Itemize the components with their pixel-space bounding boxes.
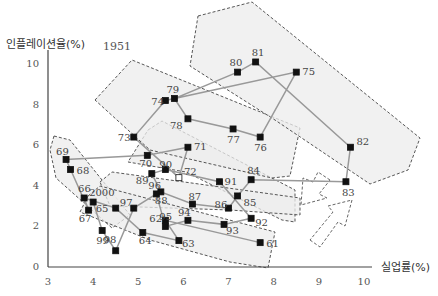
data-point-marker [257, 240, 263, 246]
data-point-marker [113, 205, 119, 211]
year-annotation: 1951 [103, 40, 131, 53]
data-point-label: 94 [178, 207, 191, 218]
data-point-marker [176, 175, 182, 181]
arrow-down-left-icon [301, 172, 330, 205]
data-point-marker [235, 193, 241, 199]
data-point-marker [171, 96, 177, 102]
x-tick-label: 3 [45, 276, 51, 287]
data-point-marker [293, 69, 299, 75]
x-tick-label: 10 [358, 276, 371, 287]
data-point-label: 91 [225, 176, 238, 187]
data-point-label: 79 [166, 84, 179, 95]
y-tick-label: 2 [33, 220, 39, 231]
arrow-up-right-icon [310, 200, 352, 247]
data-point-label: 72 [184, 166, 197, 177]
x-tick-label: 7 [225, 276, 231, 287]
data-point-marker [185, 144, 191, 150]
data-point-label: 84 [247, 165, 260, 176]
data-point-marker [68, 167, 74, 173]
y-tick-label: 6 [33, 139, 39, 150]
data-point-label: 65 [96, 203, 109, 214]
data-point-label: 68 [77, 165, 90, 176]
data-point-label: 80 [230, 57, 243, 68]
data-point-marker [90, 199, 96, 205]
data-point-label: 89 [136, 175, 149, 186]
data-point-label: 75 [302, 66, 315, 77]
data-point-label: 99 [96, 235, 109, 246]
data-point-marker [347, 144, 353, 150]
data-point-marker [99, 227, 105, 233]
data-point-marker [230, 126, 236, 132]
data-point-label: 83 [342, 187, 355, 198]
x-tick-label: 6 [180, 276, 186, 287]
data-point-marker [185, 116, 191, 122]
data-point-label: 76 [254, 142, 267, 153]
data-point-label: 70 [139, 158, 152, 169]
data-point-label: 86 [215, 199, 228, 210]
data-point-label: 61 [266, 238, 279, 249]
data-point-label: 73 [118, 132, 131, 143]
data-point-label: 93 [226, 225, 239, 236]
data-point-label: 77 [227, 134, 240, 145]
data-point-marker [217, 179, 223, 185]
data-point-label: 95 [159, 211, 172, 222]
x-tick-label: 9 [316, 276, 322, 287]
data-point-label: 85 [244, 197, 257, 208]
data-point-marker [248, 215, 254, 221]
data-point-label: 2000 [89, 187, 114, 198]
data-point-label: 92 [255, 217, 268, 228]
data-point-label: 69 [56, 146, 69, 157]
data-point-label: 96 [148, 180, 161, 191]
y-axis-title: 인플레이션율(%) [6, 38, 85, 51]
x-tick-label: 8 [271, 276, 277, 287]
x-axis-title: 실업률(%) [381, 261, 430, 274]
data-point-marker [248, 177, 254, 183]
y-tick-label: 10 [26, 58, 39, 69]
x-tick-label: 4 [90, 276, 96, 287]
data-point-marker [81, 195, 87, 201]
data-point-label: 67 [79, 213, 92, 224]
data-point-marker [113, 248, 119, 254]
data-point-label: 97 [120, 197, 133, 208]
data-point-marker [162, 223, 168, 229]
data-point-marker [149, 171, 155, 177]
data-point-marker [131, 134, 137, 140]
y-tick-label: 4 [33, 180, 39, 191]
data-point-marker [235, 69, 241, 75]
data-point-label: 63 [182, 238, 195, 249]
data-point-label: 74 [151, 96, 164, 107]
data-point-label: 81 [252, 47, 265, 58]
y-tick-label: 8 [33, 99, 39, 110]
data-point-marker [153, 191, 159, 197]
data-point-marker [253, 59, 259, 65]
y-tick-label: 0 [33, 261, 39, 272]
data-point-label: 71 [194, 141, 207, 152]
data-point-label: 64 [139, 235, 152, 246]
data-point-label: 82 [356, 136, 369, 147]
data-point-marker [343, 179, 349, 185]
phillips-curve-chart: 인플레이션율(%) 실업률(%) 1951 3456789100246810 6… [0, 0, 438, 296]
data-point-label: 78 [170, 120, 183, 131]
data-point-label: 90 [159, 159, 172, 170]
x-tick-label: 5 [135, 276, 141, 287]
data-point-label: 87 [188, 191, 201, 202]
data-point-marker [257, 134, 263, 140]
